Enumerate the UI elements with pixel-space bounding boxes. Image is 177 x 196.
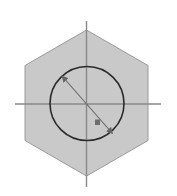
drawing-svg-root (0, 0, 177, 196)
technical-drawing-canvas: Hexagon with Inscribed Circle (0, 0, 177, 196)
dimension-text-marker (95, 120, 100, 126)
